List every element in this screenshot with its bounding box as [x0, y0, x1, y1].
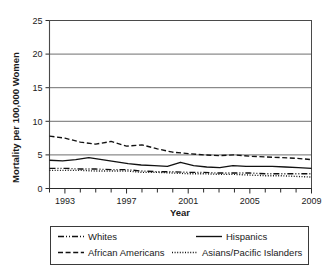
y-tick-label: 15 — [32, 83, 42, 93]
y-tick-label: 0 — [37, 184, 42, 194]
x-tick-label: 2001 — [178, 196, 198, 206]
x-tick-label: 2009 — [301, 196, 321, 206]
y-tick-label: 25 — [32, 16, 42, 26]
legend-label-asians-pacific-islanders: Asians/Pacific Islanders — [202, 247, 303, 258]
legend-label-whites: Whites — [88, 231, 117, 242]
legend-label-hispanics: Hispanics — [226, 231, 267, 242]
legend-label-african-americans: African Americans — [88, 247, 165, 258]
x-tick-label: 1997 — [117, 196, 137, 206]
chart-legend: WhitesHispanicsAfrican AmericansAsians/P… — [51, 227, 309, 265]
y-tick-label: 5 — [37, 150, 42, 160]
y-axis-title: Mortality per 100,000 Women — [10, 52, 21, 183]
x-axis-title: Year — [170, 207, 190, 218]
x-tick-label: 1993 — [55, 196, 75, 206]
y-tick-label: 20 — [32, 49, 42, 59]
mortality-line-chart: Mortality per 100,000 Women 0510152025 1… — [0, 0, 332, 271]
x-tick-label: 2005 — [240, 196, 260, 206]
y-tick-label: 10 — [32, 117, 42, 127]
chart-figure: Mortality per 100,000 Women 0510152025 1… — [0, 0, 332, 271]
